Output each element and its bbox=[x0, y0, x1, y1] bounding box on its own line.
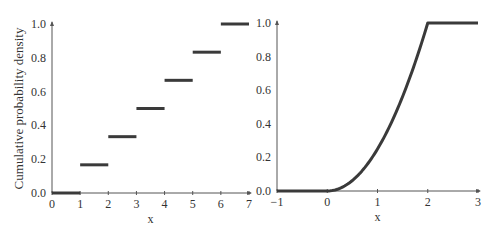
x-axis-label: x bbox=[375, 210, 381, 224]
x-tick-label: 1 bbox=[77, 197, 83, 211]
y-tick-label: 0.8 bbox=[31, 51, 46, 65]
y-tick-label: 0.0 bbox=[256, 184, 271, 198]
x-tick-label: 0 bbox=[324, 195, 330, 209]
x-tick-label: −1 bbox=[271, 195, 284, 209]
y-axis-label: Cumulative probability density bbox=[11, 27, 26, 189]
y-tick-label: 0.0 bbox=[31, 186, 46, 200]
x-tick-label: 1 bbox=[375, 195, 381, 209]
cdf-curve bbox=[277, 23, 478, 191]
y-tick-label: 1.0 bbox=[31, 17, 46, 31]
x-tick-label: 7 bbox=[246, 197, 252, 211]
y-tick-label: 0.2 bbox=[31, 152, 46, 166]
chart-canvas: 012345670.00.20.40.60.81.0xCumulative pr… bbox=[0, 0, 491, 230]
x-axis-label: x bbox=[148, 212, 154, 226]
right-plot-continuous-cdf: −101230.00.20.40.60.81.0x bbox=[256, 16, 481, 224]
left-plot-discrete-cdf: 012345670.00.20.40.60.81.0xCumulative pr… bbox=[11, 17, 252, 226]
x-tick-label: 4 bbox=[162, 197, 168, 211]
x-tick-label: 0 bbox=[49, 197, 55, 211]
y-tick-label: 0.6 bbox=[31, 85, 46, 99]
x-tick-label: 3 bbox=[475, 195, 481, 209]
x-tick-label: 3 bbox=[133, 197, 139, 211]
figure: 012345670.00.20.40.60.81.0xCumulative pr… bbox=[0, 0, 491, 230]
y-tick-label: 1.0 bbox=[256, 16, 271, 30]
x-tick-label: 6 bbox=[218, 197, 224, 211]
y-axis-arrow-icon bbox=[275, 20, 279, 25]
y-tick-label: 0.8 bbox=[256, 50, 271, 64]
y-tick-label: 0.2 bbox=[256, 150, 271, 164]
y-tick-label: 0.4 bbox=[256, 117, 271, 131]
x-tick-label: 2 bbox=[105, 197, 111, 211]
x-tick-label: 2 bbox=[425, 195, 431, 209]
y-tick-label: 0.4 bbox=[31, 118, 46, 132]
x-tick-label: 5 bbox=[190, 197, 196, 211]
y-tick-label: 0.6 bbox=[256, 83, 271, 97]
y-axis-arrow-icon bbox=[50, 21, 54, 26]
